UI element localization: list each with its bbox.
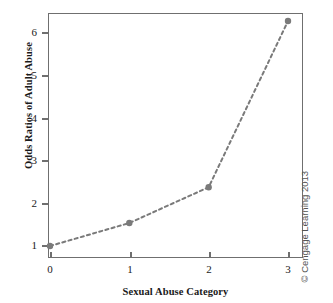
data-point xyxy=(47,243,53,249)
data-series-layer xyxy=(0,0,333,303)
series-line xyxy=(50,21,288,246)
data-point xyxy=(285,18,291,24)
data-point xyxy=(126,220,132,226)
chart-figure: 6 5 4 3 2 1 0 1 2 3 Odds Ratios of Adult… xyxy=(0,0,333,303)
data-point xyxy=(205,184,211,190)
series-markers xyxy=(47,18,291,249)
